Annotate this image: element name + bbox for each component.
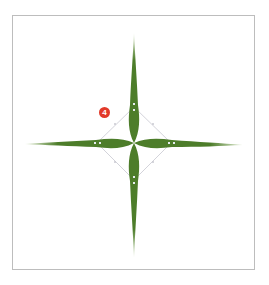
four-point-star-illustration bbox=[0, 0, 269, 285]
petal-up bbox=[129, 33, 139, 143]
petal-left bbox=[25, 139, 134, 148]
petal-down bbox=[129, 143, 139, 258]
star-petals bbox=[25, 33, 243, 258]
petal-right bbox=[134, 139, 243, 148]
step-number-badge: 4 bbox=[99, 107, 110, 118]
